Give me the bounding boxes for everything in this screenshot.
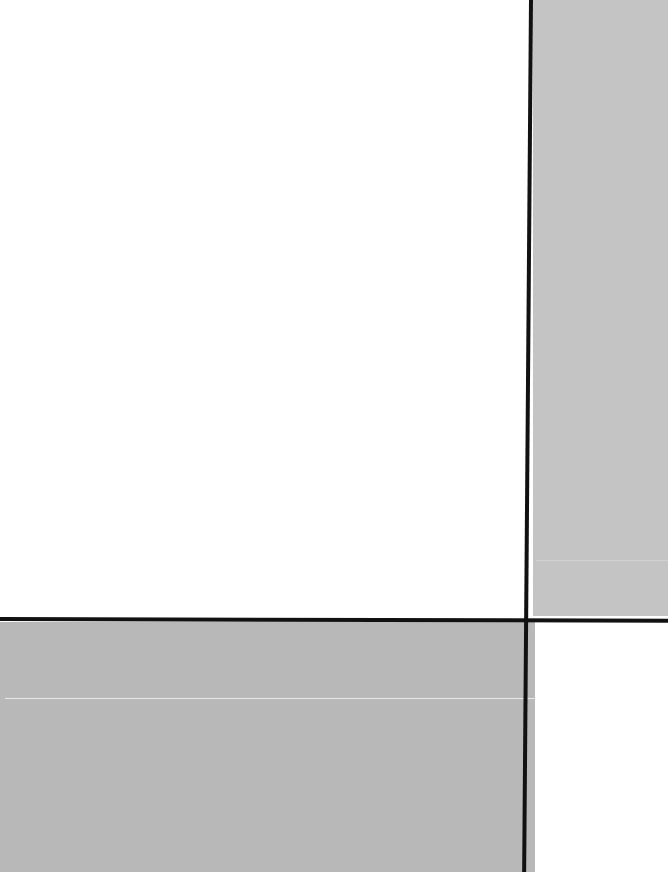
right-gray-field <box>533 0 668 616</box>
faint-scan-line <box>5 698 535 699</box>
faint-scan-line-right <box>536 560 668 561</box>
large-white-field <box>0 0 530 618</box>
bottom-gray-field <box>0 622 535 872</box>
bottom-right-white-field <box>539 622 668 872</box>
